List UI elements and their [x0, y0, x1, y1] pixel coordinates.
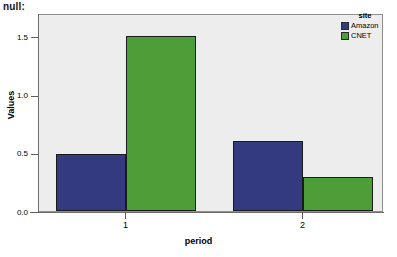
legend-swatch-icon [341, 32, 349, 40]
x-tick-label: 2 [300, 221, 305, 230]
y-tick: 0.0 [31, 212, 38, 213]
y-tick: 0.5 [31, 154, 38, 155]
legend-swatch-icon [341, 22, 349, 30]
x-tick: 2 [302, 212, 303, 219]
bars-layer [39, 15, 382, 211]
x-tick-label: 1 [123, 221, 128, 230]
y-tick: 1.0 [31, 96, 38, 97]
y-tick-label: 0.0 [17, 209, 28, 217]
bar-chart: null: 0.00.51.01.5 12 Values period site… [0, 0, 397, 257]
x-tick: 1 [125, 212, 126, 219]
legend-title: site [341, 11, 389, 20]
legend-item-cnet[interactable]: CNET [341, 31, 389, 40]
y-axis-line [38, 14, 39, 213]
y-tick-label: 0.5 [17, 150, 28, 158]
legend-item-label: Amazon [351, 21, 379, 30]
y-tick-label: 1.0 [17, 92, 28, 100]
legend-items: AmazonCNET [341, 21, 389, 40]
y-axis-title: Values [6, 75, 16, 135]
page-title: null: [3, 1, 25, 12]
x-axis-title: period [0, 236, 397, 246]
legend-item-amazon[interactable]: Amazon [341, 21, 389, 30]
x-axis-line [30, 212, 384, 213]
bar-cnet-period-1 [126, 36, 196, 211]
legend-item-label: CNET [351, 31, 371, 40]
plot-area [38, 14, 383, 212]
y-tick: 1.5 [31, 37, 38, 38]
bar-cnet-period-2 [303, 177, 373, 211]
bar-amazon-period-2 [233, 141, 303, 211]
bar-amazon-period-1 [56, 154, 126, 211]
y-tick-label: 1.5 [17, 34, 28, 42]
legend: site AmazonCNET [339, 10, 391, 43]
